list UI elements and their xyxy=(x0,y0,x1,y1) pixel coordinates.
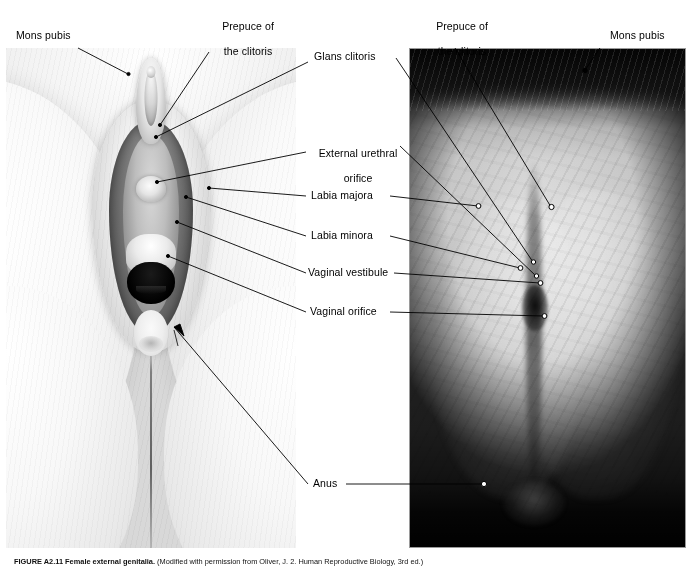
illustration-panel xyxy=(6,48,296,548)
label-prepuce-left: Prepuce of the clitoris xyxy=(205,8,279,69)
caption-figure-number: FIGURE A2.11 xyxy=(14,557,63,566)
figure-caption: FIGURE A2.11 Female external genitalia. … xyxy=(14,557,684,571)
label-external-urethral-orifice: External urethral orifice xyxy=(302,135,402,196)
external-urethral-orifice-shape xyxy=(136,176,166,202)
label-prepuce-right-line1: Prepuce of xyxy=(436,20,488,32)
label-labia-majora: Labia majora xyxy=(311,189,373,201)
label-prepuce-right: Prepuce of the clitoris xyxy=(418,8,494,69)
label-prepuce-left-line1: Prepuce of xyxy=(222,20,274,32)
label-mons-pubis-right: Mons pubis xyxy=(610,29,665,41)
caption-figure-rest: (Modified with permission from Oliver, J… xyxy=(155,557,423,566)
label-external-urethral-orifice-line1: External urethral xyxy=(319,147,398,159)
glans-clitoris-shape xyxy=(147,66,156,78)
clitoral-hood-inner-shape xyxy=(145,70,158,126)
label-prepuce-left-line2: the clitoris xyxy=(224,45,272,57)
gluteal-cleft-line xyxy=(150,348,152,548)
vaginal-orifice-shape xyxy=(127,262,175,304)
label-glans-clitoris: Glans clitoris xyxy=(314,50,376,62)
label-mons-pubis-left: Mons pubis xyxy=(16,29,71,41)
label-external-urethral-orifice-line2: orifice xyxy=(344,172,373,184)
photograph-panel xyxy=(409,48,686,548)
figure-root: Mons pubis Prepuce of the clitoris Glans… xyxy=(0,0,694,571)
label-prepuce-right-line2: the clitoris xyxy=(438,45,486,57)
anus-shape-illustration xyxy=(139,336,163,352)
photo-skin-folds xyxy=(410,49,685,547)
posterior-fourchette-shape xyxy=(136,286,166,294)
label-anus: Anus xyxy=(313,477,337,489)
label-vaginal-orifice: Vaginal orifice xyxy=(310,305,377,317)
label-labia-minora: Labia minora xyxy=(311,229,373,241)
caption-figure-title: Female external genitalia. xyxy=(65,557,155,566)
label-vaginal-vestibule: Vaginal vestibule xyxy=(308,266,388,278)
